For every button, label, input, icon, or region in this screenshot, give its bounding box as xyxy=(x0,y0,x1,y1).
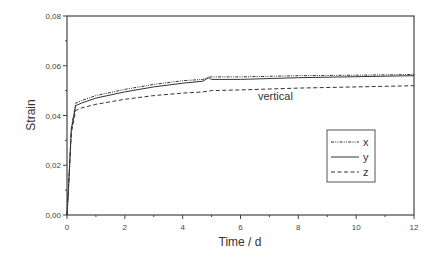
y-tick-label: 0,08 xyxy=(45,12,61,21)
y-tick-label: 0,06 xyxy=(45,62,61,71)
vertical-annotation: vertical xyxy=(258,90,293,102)
x-tick-label: 10 xyxy=(352,223,361,232)
y-axis: 0,000,020,040,060,08 xyxy=(45,12,67,220)
legend-label-y: y xyxy=(363,151,369,163)
legend-label-x: x xyxy=(363,136,369,148)
strain-chart: 0,000,020,040,060,08 024681012 Strain Ti… xyxy=(0,0,437,262)
y-tick-label: 0,04 xyxy=(45,112,61,121)
x-axis-title: Time / d xyxy=(219,235,262,249)
y-tick-label: 0,02 xyxy=(45,161,61,170)
legend-label-z: z xyxy=(363,166,369,178)
x-tick-label: 0 xyxy=(65,223,70,232)
x-axis: 024681012 xyxy=(65,215,419,232)
plot-frame xyxy=(67,16,414,215)
y-tick-label: 0,00 xyxy=(45,211,61,220)
x-tick-label: 4 xyxy=(180,223,185,232)
x-tick-label: 12 xyxy=(410,223,419,232)
x-tick-label: 8 xyxy=(296,223,301,232)
x-tick-label: 2 xyxy=(123,223,128,232)
x-tick-label: 6 xyxy=(238,223,243,232)
y-axis-title: Strain xyxy=(24,99,38,130)
legend: xyz xyxy=(327,130,375,182)
